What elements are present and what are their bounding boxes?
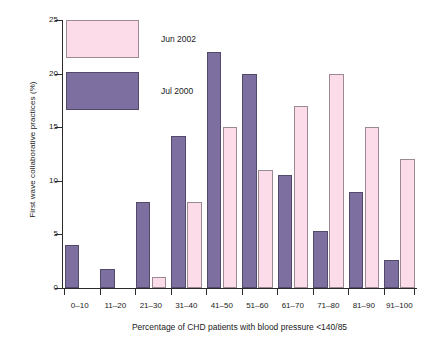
bar-jul-2000 bbox=[384, 260, 399, 288]
x-tick-mark bbox=[414, 288, 415, 295]
x-tick-mark bbox=[348, 288, 349, 295]
x-tick-label: 71–80 bbox=[317, 302, 339, 310]
bar-jul-2000 bbox=[349, 192, 364, 288]
x-tick-mark bbox=[64, 288, 65, 295]
y-tick-label: 10 bbox=[49, 177, 58, 185]
x-tick-label: 31–40 bbox=[175, 302, 197, 310]
x-tick-label: 51–60 bbox=[246, 302, 268, 310]
bar-jun-2002 bbox=[400, 159, 415, 288]
y-tick-label: 20 bbox=[49, 70, 58, 78]
plot-area: 0510152025 0–1011–2021–3031–4041–5051–60… bbox=[62, 20, 417, 288]
bar-jul-2000 bbox=[278, 175, 293, 288]
x-tick-mark bbox=[206, 288, 207, 295]
x-tick-mark bbox=[313, 288, 314, 295]
x-tick-mark bbox=[100, 288, 101, 295]
bar-jul-2000 bbox=[207, 52, 222, 288]
legend-label: Jun 2002 bbox=[161, 34, 196, 44]
x-tick-mark bbox=[384, 288, 385, 295]
x-axis-line bbox=[62, 288, 417, 289]
x-tick-label: 0–10 bbox=[71, 302, 89, 310]
x-tick-mark bbox=[242, 288, 243, 295]
x-tick-label: 11–20 bbox=[104, 302, 126, 310]
bar-jul-2000 bbox=[171, 136, 186, 288]
bar-jun-2002 bbox=[329, 74, 344, 288]
x-tick-label: 41–50 bbox=[211, 302, 233, 310]
bar-chart: First wave collaborative practices (%) 0… bbox=[0, 0, 429, 345]
y-tick-label: 5 bbox=[54, 230, 58, 238]
bar-jun-2002 bbox=[294, 106, 309, 288]
bar-jul-2000 bbox=[65, 245, 80, 288]
y-tick-label: 15 bbox=[49, 123, 58, 131]
x-tick-label: 91–100 bbox=[386, 302, 413, 310]
x-tick-label: 81–90 bbox=[353, 302, 375, 310]
x-tick-mark bbox=[135, 288, 136, 295]
x-axis-title: Percentage of CHD patients with blood pr… bbox=[62, 322, 417, 332]
x-tick-mark bbox=[171, 288, 172, 295]
bar-groups bbox=[62, 20, 417, 288]
y-tick-label: 25 bbox=[49, 16, 58, 24]
y-tick-label: 0 bbox=[54, 284, 58, 292]
bar-jun-2002 bbox=[152, 277, 167, 288]
bar-jun-2002 bbox=[365, 127, 380, 288]
x-tick-mark bbox=[277, 288, 278, 295]
legend-swatch-icon bbox=[66, 20, 139, 58]
bar-jul-2000 bbox=[313, 231, 328, 288]
x-tick-label: 61–70 bbox=[282, 302, 304, 310]
bar-jul-2000 bbox=[136, 202, 151, 288]
bar-jul-2000 bbox=[100, 269, 115, 288]
legend-swatch-icon bbox=[66, 72, 139, 110]
bar-jun-2002 bbox=[187, 202, 202, 288]
bar-jun-2002 bbox=[223, 127, 238, 288]
bar-jul-2000 bbox=[242, 74, 257, 288]
x-tick-label: 21–30 bbox=[140, 302, 162, 310]
legend-label: Jul 2000 bbox=[161, 86, 193, 96]
bar-jun-2002 bbox=[258, 170, 273, 288]
y-axis-title: First wave collaborative practices (%) bbox=[28, 50, 37, 250]
